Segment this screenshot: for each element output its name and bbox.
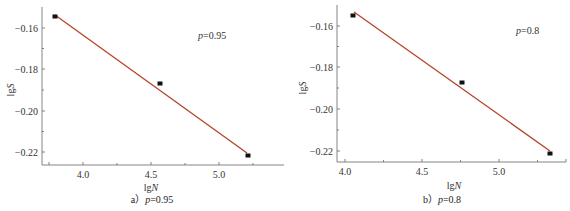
chart-b-annotation: p=0.8 [515, 25, 539, 36]
chart-a: −0.16 −0.18 −0.20 −0.22 4.0 4.5 5.0 lgN … [5, 7, 284, 205]
figure-canvas: −0.16 −0.18 −0.20 −0.22 4.0 4.5 5.0 lgN … [0, 0, 570, 211]
y-tick-label: −0.20 [15, 106, 38, 117]
chart-a-x-tick-labels: 4.0 4.5 5.0 [77, 169, 226, 180]
chart-b-caption: b）p=0.8 [423, 194, 461, 205]
chart-b-x-ticks [345, 159, 538, 162]
chart-b-x-axis-title: lgN [447, 180, 463, 191]
chart-b-x-tick-labels: 4.0 4.5 5.0 [339, 166, 506, 177]
y-tick-label: −0.18 [310, 62, 333, 73]
chart-a-annotation: p=0.95 [197, 30, 226, 41]
chart-a-x-axis-title: lgN [144, 182, 160, 193]
x-tick-label: 5.0 [493, 166, 506, 177]
y-tick-label: −0.20 [310, 104, 333, 115]
data-point [246, 154, 251, 158]
chart-b-y-axis-title: lgS [297, 82, 308, 95]
data-point [460, 81, 465, 85]
chart-a-y-tick-labels: −0.16 −0.18 −0.20 −0.22 [15, 23, 38, 158]
x-tick-label: 4.5 [145, 169, 158, 180]
y-tick-label: −0.16 [15, 23, 38, 34]
chart-a-y-ticks [42, 28, 45, 152]
data-point [158, 82, 163, 86]
chart-b-y-ticks [337, 26, 340, 151]
x-tick-label: 4.0 [77, 169, 90, 180]
x-tick-label: 5.0 [213, 169, 226, 180]
chart-b-y-tick-labels: −0.16 −0.18 −0.20 −0.22 [310, 21, 333, 157]
x-tick-label: 4.0 [339, 166, 352, 177]
y-tick-label: −0.18 [15, 64, 38, 75]
data-point [53, 15, 58, 19]
data-point [351, 14, 356, 18]
chart-b: −0.16 −0.18 −0.20 −0.22 4.0 4.5 5.0 lgN … [297, 5, 566, 205]
chart-a-y-axis-title: lgS [5, 84, 16, 97]
x-tick-label: 4.5 [416, 166, 429, 177]
y-tick-label: −0.22 [310, 146, 333, 157]
data-point [548, 152, 553, 156]
y-tick-label: −0.16 [310, 21, 333, 32]
chart-a-caption: a）p=0.95 [131, 194, 174, 205]
y-tick-label: −0.22 [15, 147, 38, 158]
chart-a-x-ticks [49, 162, 253, 165]
